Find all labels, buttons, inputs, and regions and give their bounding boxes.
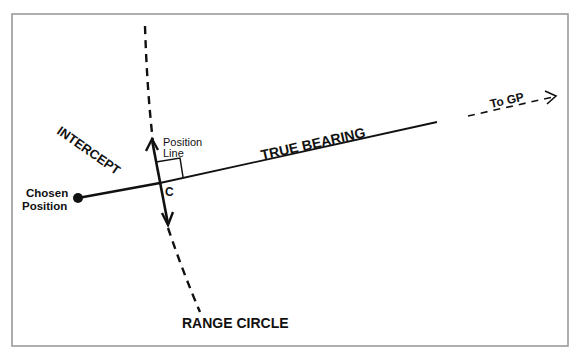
intercept-diagram: INTERCEPT TRUE BEARING To GP Position Li… bbox=[0, 0, 580, 355]
point-c-label: C bbox=[165, 185, 174, 199]
right-angle-marker bbox=[156, 158, 183, 177]
position-line-label-2: Line bbox=[163, 147, 184, 159]
intercept-line bbox=[78, 183, 160, 198]
intercept-label: INTERCEPT bbox=[54, 123, 123, 178]
range-circle-arc-bottom bbox=[168, 228, 200, 312]
chosen-position-label-1: Chosen bbox=[26, 187, 68, 199]
true-bearing-label: TRUE BEARING bbox=[259, 124, 367, 163]
chosen-position-dot bbox=[73, 193, 83, 203]
diagram-frame bbox=[12, 14, 568, 346]
chosen-position-label-2: Position bbox=[22, 200, 67, 212]
range-circle-arc-top bbox=[145, 26, 153, 142]
range-circle-label: RANGE CIRCLE bbox=[182, 315, 289, 331]
